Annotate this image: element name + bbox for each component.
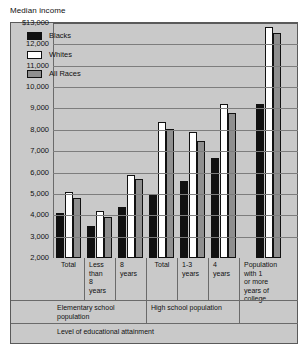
y-axis-tick-label: 6,000 [30,169,49,177]
category-axis-left-pad [11,258,53,345]
category-group-label [239,301,298,324]
gridline [53,23,298,24]
y-axis-tick-label: 7,000 [30,147,49,155]
legend: BlacksWhitesAll Races [27,26,147,83]
category-label: Total [53,258,84,300]
y-axis-tick-label: 8,000 [30,126,49,134]
bar [256,104,264,258]
bar [73,198,81,258]
y-axis-tick-label: 5,000 [30,190,49,198]
gridline [53,194,298,195]
gridline [53,215,298,216]
bar [180,181,188,258]
bar [158,122,166,258]
category-label: Populationwith 1or moreyears ofcollege [239,258,298,300]
bar [87,226,95,258]
legend-label: Whites [49,50,72,59]
legend-item[interactable]: All Races [27,64,147,83]
bar [220,104,228,258]
bar [127,175,135,258]
gridline [53,151,298,152]
gridline [53,87,298,88]
bar [65,192,73,258]
table-divider [11,300,53,301]
category-group-row: Elementary school populationHigh school … [53,300,298,324]
chart-root: Median income $13,00012,00011,00010,0009… [0,0,308,356]
category-group-label: Elementary school population [53,301,146,324]
legend-item[interactable]: Whites [27,45,147,64]
category-axis: TotalLessthan8years8yearsTotal1-3years4y… [53,258,298,345]
gridline [53,237,298,238]
legend-label: Blacks [49,31,71,40]
category-label: 4years [208,258,239,300]
bar [265,27,273,258]
category-label: 1-3years [177,258,208,300]
legend-label: All Races [49,69,81,78]
category-labels-row: TotalLessthan8years8yearsTotal1-3years4y… [53,258,298,300]
page-title: Median income [10,6,66,15]
axis-title: Level of educational attainment [53,323,298,345]
y-axis-tick-label: 9,000 [30,104,49,112]
category-label: Total [146,258,177,300]
category-label: Lessthan8years [84,258,115,300]
gridline [53,173,298,174]
bar [96,211,104,258]
legend-item[interactable]: Blacks [27,26,147,45]
bar [135,179,143,258]
legend-swatch-icon [27,70,42,78]
chart-panel: $13,00012,00011,00010,0009,0008,0007,000… [10,22,298,344]
y-axis-tick-label: 3,000 [30,233,49,241]
gridline [53,130,298,131]
table-divider [11,323,53,324]
y-axis-tick-label: 4,000 [30,211,49,219]
bar [104,217,112,258]
gridline [53,108,298,109]
category-label: 8years [115,258,146,300]
legend-swatch-icon [27,32,42,40]
category-group-label: High school population [146,301,239,324]
legend-swatch-icon [27,51,42,59]
bar [149,194,157,258]
bar [56,213,64,258]
y-axis-tick-label: 10,000 [26,83,49,91]
bar [197,141,205,259]
